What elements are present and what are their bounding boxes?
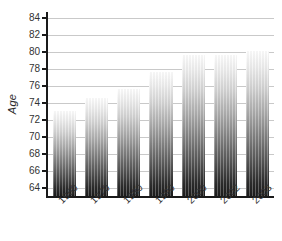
- bar: [149, 72, 172, 196]
- y-tick-label: 80: [2, 47, 40, 57]
- y-tick-label: 70: [2, 132, 40, 142]
- y-tick-label: 84: [2, 13, 40, 23]
- y-tick-label: 76: [2, 81, 40, 91]
- y-tick-label: 74: [2, 98, 40, 108]
- bar-chart: Age 6466687072747678808284 1960197019801…: [0, 0, 282, 241]
- x-axis-labels: 1960197019801990200020022003: [48, 198, 274, 241]
- y-tick-label: 78: [2, 64, 40, 74]
- y-tick-label: 68: [2, 149, 40, 159]
- bar: [117, 89, 140, 196]
- y-tick-label: 66: [2, 166, 40, 176]
- bar: [246, 51, 269, 196]
- plot-area: 6466687072747678808284: [48, 14, 274, 196]
- y-tick-label: 82: [2, 30, 40, 40]
- bars-layer: [48, 14, 274, 196]
- bar: [182, 55, 205, 196]
- bar: [214, 55, 237, 196]
- y-tick-label: 64: [2, 183, 40, 193]
- y-tick-label: 72: [2, 115, 40, 125]
